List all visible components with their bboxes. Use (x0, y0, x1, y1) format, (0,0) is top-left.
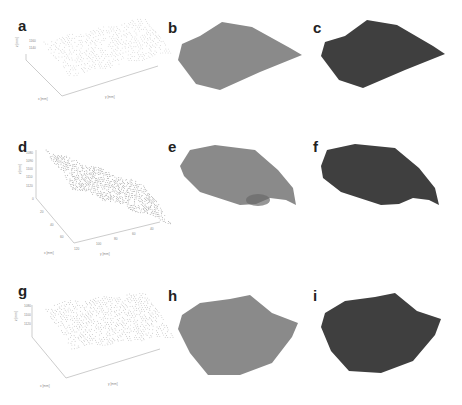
svg-text:1080: 1080 (24, 304, 31, 308)
panel-a: a 1160 1140 z [mm] x [mm] y [mm] (0, 0, 160, 130)
svg-text:x [mm]: x [mm] (40, 384, 50, 388)
svg-text:120: 120 (74, 247, 80, 251)
panel-d: d 1080 1090 1100 1110 1120 z [mm] 0 20 4… (0, 130, 160, 265)
svg-text:1080: 1080 (26, 151, 33, 155)
svg-text:1100: 1100 (26, 167, 33, 171)
surface-render-c (305, 0, 462, 130)
svg-text:z [mm]: z [mm] (15, 37, 19, 47)
svg-text:1160: 1160 (29, 39, 36, 43)
svg-text:1120: 1120 (24, 322, 31, 326)
svg-text:1140: 1140 (29, 46, 36, 50)
point-cloud-plot-d: 1080 1090 1100 1110 1120 z [mm] 0 20 40 … (0, 130, 160, 265)
svg-text:0: 0 (32, 197, 34, 201)
panel-h: h (160, 265, 305, 405)
svg-text:x [mm]: x [mm] (38, 97, 48, 101)
svg-text:x [mm]: x [mm] (44, 251, 54, 255)
panel-i: i (305, 265, 462, 405)
svg-text:z [mm]: z [mm] (18, 164, 22, 174)
surface-render-f (305, 130, 462, 265)
svg-text:60: 60 (60, 235, 64, 239)
svg-text:80: 80 (114, 237, 118, 241)
point-cloud-plot-a: 1160 1140 z [mm] x [mm] y [mm] (0, 0, 160, 130)
svg-text:1110: 1110 (26, 175, 33, 179)
svg-text:y [mm]: y [mm] (100, 252, 110, 256)
surface-render-e (160, 130, 305, 265)
svg-text:20: 20 (40, 210, 44, 214)
panel-f: f (305, 130, 462, 265)
panel-c: c (305, 0, 462, 130)
svg-text:y [mm]: y [mm] (105, 95, 115, 99)
svg-text:40: 40 (150, 227, 154, 231)
point-cloud-plot-g: 1080 1100 1120 z [mm] x [mm] y [mm] (0, 265, 160, 405)
panel-g: g 1080 1100 1120 z [mm] x [mm] y [mm] (0, 265, 160, 405)
surface-render-i (305, 265, 462, 405)
svg-text:y [mm]: y [mm] (108, 382, 118, 386)
svg-text:1120: 1120 (26, 184, 33, 188)
surface-render-b (160, 0, 305, 130)
svg-text:1090: 1090 (26, 159, 33, 163)
svg-text:1100: 1100 (24, 313, 31, 317)
svg-text:40: 40 (50, 223, 54, 227)
svg-text:z [mm]: z [mm] (14, 311, 18, 321)
panel-e: e (160, 130, 305, 265)
svg-text:60: 60 (132, 232, 136, 236)
surface-render-h (160, 265, 305, 405)
panel-b: b (160, 0, 305, 130)
svg-text:100: 100 (96, 242, 102, 246)
